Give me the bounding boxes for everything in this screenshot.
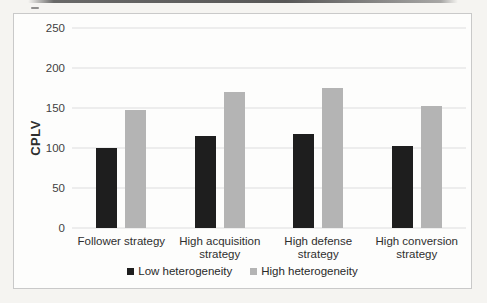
bar-low-heterogeneity-4 bbox=[392, 146, 413, 228]
legend-item-low-heterogeneity: Low heterogeneity bbox=[127, 265, 232, 277]
bar-group-3 bbox=[269, 28, 368, 228]
y-tick-label-0: 0 bbox=[59, 222, 65, 234]
scan-smudge bbox=[31, 7, 39, 9]
x-category-label-4: High conversion strategy bbox=[368, 235, 467, 261]
y-tick-label-50: 50 bbox=[52, 182, 65, 194]
x-category-label-2: High acquisition strategy bbox=[171, 235, 270, 261]
legend-label: High heterogeneity bbox=[261, 265, 358, 277]
bar-low-heterogeneity-3 bbox=[293, 134, 314, 228]
bar-high-heterogeneity-4 bbox=[421, 106, 442, 228]
legend-label: Low heterogeneity bbox=[138, 265, 232, 277]
x-category-label-1: Follower strategy bbox=[72, 235, 171, 261]
plot-area bbox=[72, 28, 466, 228]
x-category-label-3: High defense strategy bbox=[269, 235, 368, 261]
bar-high-heterogeneity-1 bbox=[125, 110, 146, 228]
y-tick-label-200: 200 bbox=[46, 62, 65, 74]
legend: Low heterogeneityHigh heterogeneity bbox=[14, 265, 471, 277]
bar-high-heterogeneity-3 bbox=[322, 88, 343, 228]
bar-group-1 bbox=[72, 28, 171, 228]
y-tick-label-150: 150 bbox=[46, 102, 65, 114]
y-tick-label-250: 250 bbox=[46, 22, 65, 34]
bar-chart-frame: CPLV 050100150200250 Follower strategyHi… bbox=[13, 13, 472, 289]
bars bbox=[72, 28, 466, 228]
x-axis-category-labels: Follower strategyHigh acquisition strate… bbox=[72, 235, 466, 261]
bar-high-heterogeneity-2 bbox=[224, 92, 245, 228]
legend-swatch-icon bbox=[127, 268, 134, 275]
bar-group-4 bbox=[368, 28, 467, 228]
bar-low-heterogeneity-2 bbox=[195, 136, 216, 228]
legend-swatch-icon bbox=[250, 268, 257, 275]
scanned-figure: CPLV 050100150200250 Follower strategyHi… bbox=[0, 0, 487, 303]
scan-artifact-line bbox=[28, 0, 458, 3]
y-axis-tick-labels: 050100150200250 bbox=[14, 28, 65, 228]
bar-low-heterogeneity-1 bbox=[96, 148, 117, 228]
y-tick-label-100: 100 bbox=[46, 142, 65, 154]
legend-item-high-heterogeneity: High heterogeneity bbox=[250, 265, 358, 277]
bar-group-2 bbox=[171, 28, 270, 228]
